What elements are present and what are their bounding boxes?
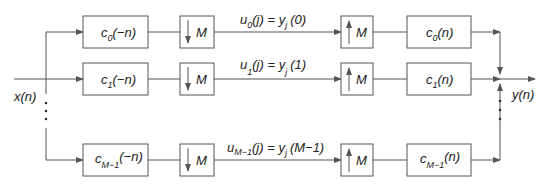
- svg-text:M: M: [196, 25, 207, 40]
- svg-text:M: M: [196, 153, 207, 168]
- channel-row-0: c0(−n) M u0(j) = yj(0) M c0(n): [46, 12, 500, 48]
- signal-label-1: u1(j) = yj(1): [240, 57, 306, 77]
- output-label: y(n): [511, 87, 534, 102]
- input-label: x(n): [13, 89, 36, 104]
- svg-text:M: M: [196, 72, 207, 87]
- svg-text:M: M: [356, 72, 367, 87]
- channel-row-last: cM−1(−n) M uM−1(j) = yj(M−1) M cM−1(n): [46, 140, 500, 176]
- signal-label-last: uM−1(j) = yj(M−1): [227, 140, 324, 158]
- svg-text:M: M: [356, 153, 367, 168]
- svg-text:M: M: [356, 25, 367, 40]
- left-ellipsis: [45, 102, 48, 121]
- signal-label-0: u0(j) = yj(0): [240, 12, 306, 30]
- filter-bank-diagram: x(n) c0(−n) M u0(j) = yj(0) M c0(n) c1(−…: [0, 0, 547, 187]
- channel-row-1: c1(−n) M u1(j) = yj(1) M c1(n): [83, 57, 500, 95]
